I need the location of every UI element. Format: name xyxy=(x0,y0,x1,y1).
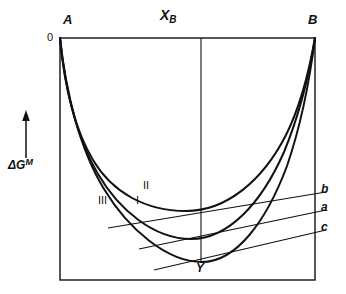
y-axis-arrow xyxy=(22,110,30,158)
curve-label-ii: II xyxy=(143,180,149,191)
origin-label-zero: 0 xyxy=(47,32,53,43)
plot-canvas xyxy=(0,0,346,294)
x-axis-title: XB xyxy=(160,8,177,25)
point-label-y: Y xyxy=(196,262,204,274)
tangent-line-c xyxy=(154,230,326,270)
curve-label-i: I xyxy=(136,195,139,206)
axis-endpoint-label-a: A xyxy=(63,13,72,26)
tangent-label-a: a xyxy=(321,201,328,213)
x-axis-title-symbol: X xyxy=(160,7,169,23)
y-axis-title-symbol: ΔG xyxy=(8,158,25,172)
y-axis-title: ΔGM xyxy=(8,158,33,171)
tangent-label-b: b xyxy=(321,183,328,195)
free-energy-figure: XB ΔGM A B 0 I II III a b c Y xyxy=(0,0,346,294)
tangent-line-a xyxy=(139,210,326,249)
axis-endpoint-label-b: B xyxy=(308,13,317,26)
curve-ii xyxy=(60,38,315,211)
curve-label-iii: III xyxy=(98,195,107,206)
curve-i xyxy=(60,38,315,239)
y-axis-title-superscript: M xyxy=(25,157,33,167)
tangent-label-c: c xyxy=(321,221,328,233)
plot-frame xyxy=(60,38,315,280)
x-axis-title-subscript: B xyxy=(169,14,176,25)
